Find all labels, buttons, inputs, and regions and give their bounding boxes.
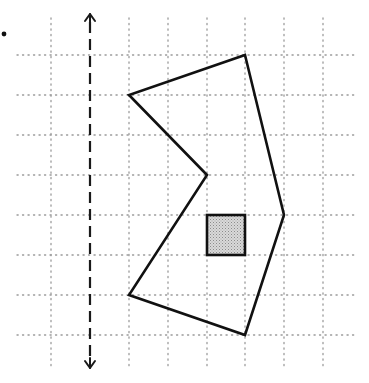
shaded-square — [207, 215, 245, 255]
reflection-diagram — [0, 0, 369, 383]
question-bullet — [2, 32, 7, 37]
dotted-grid — [17, 18, 358, 370]
mirror-line — [85, 14, 95, 368]
